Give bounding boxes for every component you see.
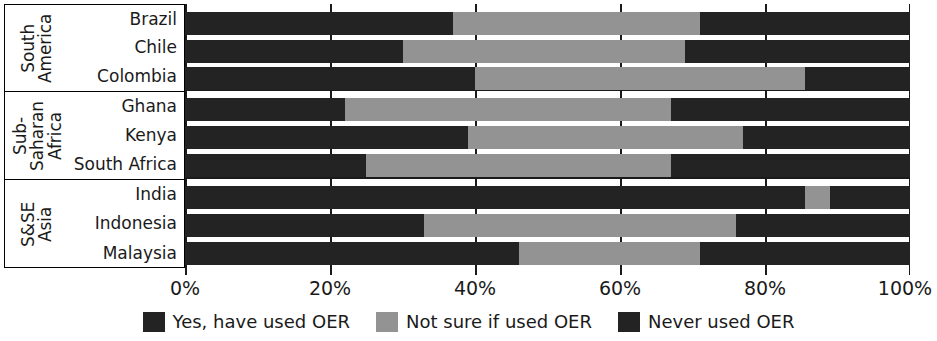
legend-label-never: Never used OER — [648, 312, 794, 332]
bar-segment-never — [671, 98, 910, 121]
bar-segment-notsure — [345, 98, 671, 121]
bar-row-chile — [185, 40, 910, 63]
category-label-brazil: Brazil — [71, 11, 177, 28]
legend-item-notsure: Not sure if used OER — [376, 312, 592, 332]
bar-segment-notsure — [424, 214, 736, 237]
legend-swatch-yes — [143, 312, 165, 332]
category-label-india: India — [71, 186, 177, 203]
legend-swatch-notsure — [376, 312, 398, 332]
category-label-south-africa: South Africa — [71, 156, 177, 173]
chart-plot-region: South America Brazil Chile Colombia Sub-… — [0, 0, 937, 272]
bar-segment-yes — [185, 242, 519, 265]
category-names-s-and-se-asia: India Indonesia Malaysia — [71, 180, 184, 268]
bar-row-malaysia — [185, 242, 910, 265]
bar-segment-notsure — [453, 12, 700, 35]
stacked-bar-chart: South America Brazil Chile Colombia Sub-… — [0, 0, 937, 341]
legend-label-notsure: Not sure if used OER — [406, 312, 592, 332]
x-tick-100: 100% — [878, 277, 932, 299]
bar-segment-notsure — [468, 126, 744, 149]
bar-segment-never — [700, 242, 910, 265]
bar-segment-notsure — [403, 40, 686, 63]
bar-segment-yes — [185, 98, 345, 121]
bar-segment-never — [743, 126, 910, 149]
bar-row-kenya — [185, 126, 910, 149]
bar-segment-never — [736, 214, 910, 237]
group-label-sub-saharan-africa: Sub- Saharan Africa — [5, 92, 71, 179]
bar-segment-notsure — [519, 242, 700, 265]
bar-row-colombia — [185, 67, 910, 90]
bar-segment-yes — [185, 186, 805, 209]
legend-item-yes: Yes, have used OER — [143, 312, 350, 332]
x-tick-0: 0% — [170, 277, 200, 299]
x-tick-60: 60% — [599, 277, 641, 299]
x-axis-tick-labels: 0% 20% 40% 60% 80% 100% — [0, 277, 937, 303]
category-label-table: South America Brazil Chile Colombia Sub-… — [4, 4, 185, 268]
bar-segment-never — [805, 67, 910, 90]
bar-segment-never — [700, 12, 910, 35]
bar-segment-yes — [185, 67, 475, 90]
bar-row-brazil — [185, 12, 910, 35]
bar-segment-yes — [185, 214, 424, 237]
group-label-s-and-se-asia: S&SE Asia — [5, 180, 71, 268]
bar-segment-never — [830, 186, 910, 209]
bar-row-ghana — [185, 98, 910, 121]
x-tick-40: 40% — [454, 277, 496, 299]
group-s-and-se-asia: S&SE Asia India Indonesia Malaysia — [5, 179, 184, 268]
bar-segment-yes — [185, 12, 453, 35]
bar-row-south-africa — [185, 154, 910, 177]
category-label-malaysia: Malaysia — [71, 245, 177, 262]
bar-segment-notsure — [366, 154, 671, 177]
category-label-chile: Chile — [71, 39, 177, 56]
group-label-south-america: South America — [5, 5, 71, 91]
bar-segment-never — [685, 40, 910, 63]
legend-swatch-never — [618, 312, 640, 332]
plot-area — [185, 4, 910, 268]
legend-item-never: Never used OER — [618, 312, 794, 332]
bar-segment-yes — [185, 126, 468, 149]
legend-label-yes: Yes, have used OER — [173, 312, 350, 332]
bar-row-india — [185, 186, 910, 209]
bar-segment-yes — [185, 40, 403, 63]
category-names-sub-saharan-africa: Ghana Kenya South Africa — [71, 92, 184, 179]
group-divider-2 — [185, 177, 910, 179]
category-label-ghana: Ghana — [71, 98, 177, 115]
x-tick-80: 80% — [744, 277, 786, 299]
bar-segment-notsure — [475, 67, 805, 90]
x-tick-20: 20% — [309, 277, 351, 299]
group-sub-saharan-africa: Sub- Saharan Africa Ghana Kenya South Af… — [5, 91, 184, 179]
category-label-kenya: Kenya — [71, 127, 177, 144]
bar-segment-notsure — [805, 186, 830, 209]
bar-segment-never — [671, 154, 910, 177]
chart-legend: Yes, have used OER Not sure if used OER … — [0, 307, 937, 337]
group-south-america: South America Brazil Chile Colombia — [5, 5, 184, 91]
category-names-south-america: Brazil Chile Colombia — [71, 5, 184, 91]
bar-row-indonesia — [185, 214, 910, 237]
category-label-colombia: Colombia — [71, 68, 177, 85]
category-label-indonesia: Indonesia — [71, 215, 177, 232]
bar-segment-yes — [185, 154, 366, 177]
